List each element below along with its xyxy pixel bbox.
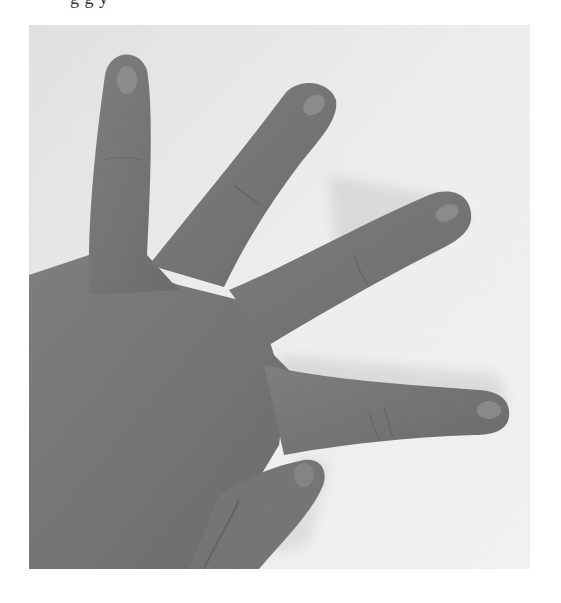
- film-grain: [29, 25, 530, 569]
- cropped-text-line: g g y: [70, 0, 109, 9]
- hand-illustration: [29, 25, 530, 569]
- hand-photo: [29, 25, 530, 569]
